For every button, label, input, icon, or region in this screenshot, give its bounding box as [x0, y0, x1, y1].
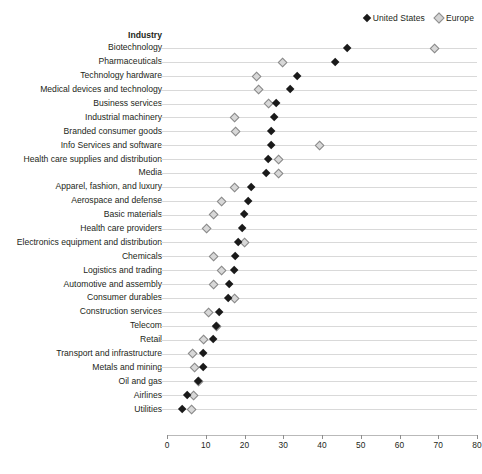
- chart-row: Construction services: [0, 305, 482, 319]
- open-diamond-icon: [216, 196, 226, 206]
- open-diamond-icon: [199, 335, 209, 345]
- gridline: [161, 298, 477, 299]
- row-track: [167, 277, 477, 291]
- chart-row: Business services: [0, 97, 482, 111]
- data-point-united-states: [292, 71, 301, 80]
- data-point-united-states: [223, 293, 232, 302]
- x-tick-label: 60: [395, 440, 404, 450]
- x-tick-label: 0: [165, 440, 170, 450]
- chart-row: Medical devices and technology: [0, 83, 482, 97]
- row-label-industrial-machinery: Industrial machinery: [0, 110, 166, 124]
- data-point-europe: [201, 224, 210, 233]
- row-track: [167, 110, 477, 124]
- row-label-pharmaceuticals: Pharmaceuticals: [0, 55, 166, 69]
- data-point-united-states: [244, 196, 253, 205]
- filled-diamond-icon: [224, 280, 233, 289]
- gridline: [161, 90, 477, 91]
- gridline: [161, 159, 477, 160]
- gridline: [161, 354, 477, 355]
- row-track: [167, 360, 477, 374]
- filled-diamond-icon: [194, 377, 203, 386]
- data-point-united-states: [194, 377, 203, 386]
- filled-diamond-icon: [362, 14, 370, 22]
- filled-diamond-icon: [231, 252, 240, 261]
- row-label-transport-and-infrastructure: Transport and infrastructure: [0, 347, 166, 361]
- data-point-europe: [430, 43, 439, 52]
- data-point-europe: [274, 155, 283, 164]
- filled-diamond-icon: [330, 57, 339, 66]
- row-label-telecom: Telecom: [0, 319, 166, 333]
- x-tick: [245, 435, 246, 439]
- gridline: [161, 367, 477, 368]
- x-tick: [438, 435, 439, 439]
- filled-diamond-icon: [214, 307, 223, 316]
- data-point-united-states: [238, 224, 247, 233]
- x-tick: [206, 435, 207, 439]
- gridline: [161, 270, 477, 271]
- data-point-united-states: [199, 363, 208, 372]
- x-tick-label: 10: [201, 440, 210, 450]
- gridline: [161, 242, 477, 243]
- filled-diamond-icon: [199, 349, 208, 358]
- row-track: [167, 152, 477, 166]
- row-label-airlines: Airlines: [0, 388, 166, 402]
- row-track: [167, 180, 477, 194]
- row-label-aerospace-and-defense: Aerospace and defense: [0, 194, 166, 208]
- filled-diamond-icon: [266, 127, 275, 136]
- chart-row: Transport and infrastructure: [0, 347, 482, 361]
- row-track: [167, 291, 477, 305]
- chart-row: Electronics equipment and distribution: [0, 235, 482, 249]
- chart-row: Technology hardware: [0, 69, 482, 83]
- chart-row: Health care supplies and distribution: [0, 152, 482, 166]
- chart-row: Oil and gas: [0, 374, 482, 388]
- data-point-united-states: [266, 127, 275, 136]
- data-point-europe: [252, 71, 261, 80]
- gridline: [161, 117, 477, 118]
- chart-row: Retail: [0, 333, 482, 347]
- data-point-united-states: [234, 238, 243, 247]
- legend-item-united-states: United States: [364, 14, 425, 23]
- row-label-info-services-and-software: Info Services and software: [0, 138, 166, 152]
- row-track: [167, 235, 477, 249]
- data-point-united-states: [270, 113, 279, 122]
- filled-diamond-icon: [199, 363, 208, 372]
- filled-diamond-icon: [285, 85, 294, 94]
- filled-diamond-icon: [343, 43, 352, 52]
- row-track: [167, 69, 477, 83]
- legend-label-united-states: United States: [373, 14, 425, 23]
- data-point-united-states: [240, 210, 249, 219]
- data-point-united-states: [212, 321, 221, 330]
- open-diamond-icon: [187, 404, 197, 414]
- row-track: [167, 97, 477, 111]
- chart-row: Chemicals: [0, 249, 482, 263]
- column-header-industry: Industry: [0, 30, 166, 40]
- row-track: [167, 222, 477, 236]
- chart-row: Airlines: [0, 388, 482, 402]
- open-diamond-icon: [208, 279, 218, 289]
- data-point-europe: [187, 405, 196, 414]
- filled-diamond-icon: [230, 266, 239, 275]
- data-point-united-states: [343, 43, 352, 52]
- filled-diamond-icon: [183, 391, 192, 400]
- chart-row: Pharmaceuticals: [0, 55, 482, 69]
- filled-diamond-icon: [266, 141, 275, 150]
- x-tick: [322, 435, 323, 439]
- x-tick-label: 30: [279, 440, 288, 450]
- data-point-europe: [274, 168, 283, 177]
- row-track: [167, 333, 477, 347]
- row-track: [167, 55, 477, 69]
- chart-row: Logistics and trading: [0, 263, 482, 277]
- chart-row: Media: [0, 166, 482, 180]
- row-label-biotechnology: Biotechnology: [0, 41, 166, 55]
- filled-diamond-icon: [209, 335, 218, 344]
- row-label-metals-and-mining: Metals and mining: [0, 360, 166, 374]
- row-track: [167, 249, 477, 263]
- row-track: [167, 41, 477, 55]
- x-tick-label: 20: [240, 440, 249, 450]
- open-diamond-icon: [274, 154, 284, 164]
- filled-diamond-icon: [212, 321, 221, 330]
- chart-row: Aerospace and defense: [0, 194, 482, 208]
- data-point-europe: [230, 113, 239, 122]
- x-tick: [400, 435, 401, 439]
- row-label-chemicals: Chemicals: [0, 249, 166, 263]
